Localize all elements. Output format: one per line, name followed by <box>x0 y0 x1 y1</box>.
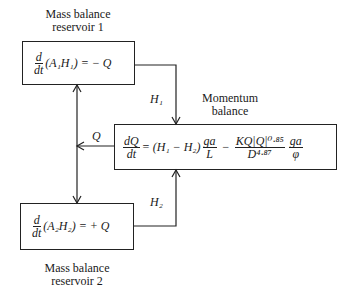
reservoir1-title-line2: reservoir 1 <box>22 21 134 34</box>
reservoir2-equation: ddt (A₂H₂) = + Q <box>30 214 110 239</box>
h2-signal-label: H₂ <box>150 195 163 210</box>
derivative-denominator: dt <box>32 227 41 239</box>
minus-sign: − <box>222 140 230 155</box>
momentum-equation: dQdt = (H₁ − H₂) gaL − KQ|Q|⁰·⁸⁵D⁴·⁸⁷ ga… <box>121 135 305 160</box>
reservoir1-equation: ddt (A₁H₁) = − Q <box>32 51 112 76</box>
frac3-numerator: ga <box>289 135 303 148</box>
momentum-title-line2: balance <box>190 105 270 118</box>
lhs-denominator: dt <box>127 148 136 160</box>
reservoir1-mass-balance-box: ddt (A₁H₁) = − Q <box>22 41 135 85</box>
lhs-numerator: dQ <box>123 135 140 148</box>
reservoir2-title: Mass balance reservoir 2 <box>20 262 134 288</box>
q-signal-label: Q <box>92 129 101 144</box>
reservoir1-title: Mass balance reservoir 1 <box>22 8 134 34</box>
frac3-denominator: φ <box>292 148 299 160</box>
frac1-numerator: ga <box>203 135 217 148</box>
derivative-numerator: d <box>35 51 43 64</box>
reservoir2-mass-balance-box: ddt (A₂H₂) = + Q <box>20 203 134 250</box>
reservoir1-equation-body: (A₁H₁) = − Q <box>45 56 111 71</box>
reservoir2-equation-body: (A₂H₂) = + Q <box>43 219 109 234</box>
momentum-balance-box: dQdt = (H₁ − H₂) gaL − KQ|Q|⁰·⁸⁵D⁴·⁸⁷ ga… <box>114 124 337 170</box>
h1-signal-label: H₁ <box>150 92 163 107</box>
derivative-denominator: dt <box>34 64 43 76</box>
frac1-denominator: L <box>206 148 213 160</box>
momentum-title: Momentum balance <box>190 92 270 118</box>
head-term: = (H₁ − H₂) <box>142 140 201 155</box>
reservoir2-title-line2: reservoir 2 <box>20 275 134 288</box>
frac2-numerator: KQ|Q|⁰·⁸⁵ <box>235 135 285 148</box>
frac2-denominator: D⁴·⁸⁷ <box>248 148 272 160</box>
